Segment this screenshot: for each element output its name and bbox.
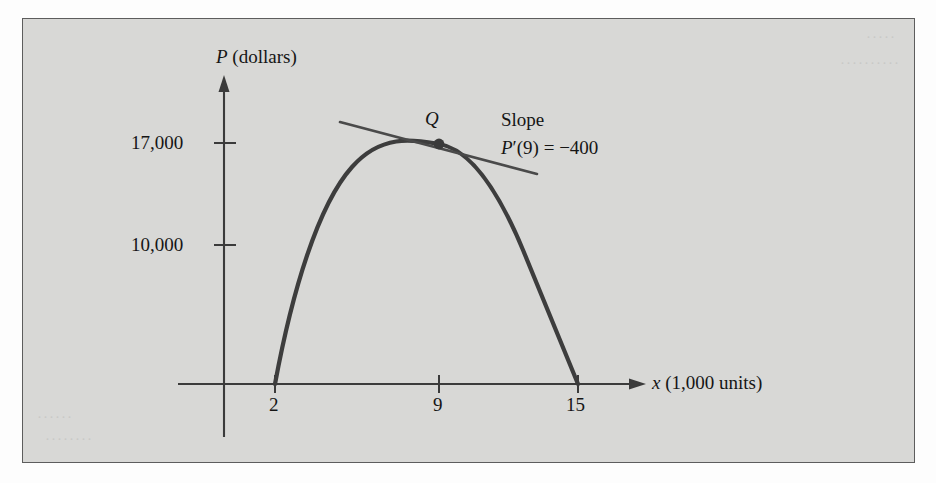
x-axis-label: x (1,000 units): [652, 373, 762, 392]
y-axis-label: P (dollars): [216, 47, 297, 66]
slope-value-rest: ′(9) = −400: [513, 137, 599, 158]
slope-annotation-value: P′(9) = −400: [501, 138, 598, 157]
y-axis-label-symbol: P: [216, 46, 228, 67]
x-axis-label-unit: (1,000 units): [660, 372, 762, 393]
slope-annotation-title: Slope: [501, 110, 544, 129]
y-tick-label-10000: 10,000: [131, 235, 183, 254]
x-tick-label-2: 2: [269, 395, 279, 414]
x-tick-label-9: 9: [433, 395, 443, 414]
x-tick-label-15: 15: [566, 395, 585, 414]
y-axis: [219, 75, 230, 437]
figure-root: ····· ·········· ········ ······: [0, 0, 936, 483]
point-q-label: Q: [425, 109, 439, 128]
point-q-marker: [434, 139, 445, 150]
slope-value-symbol: P: [501, 137, 513, 158]
profit-curve: [275, 141, 578, 384]
y-tick-label-17000: 17,000: [131, 133, 183, 152]
y-axis-label-unit: (dollars): [228, 46, 297, 67]
